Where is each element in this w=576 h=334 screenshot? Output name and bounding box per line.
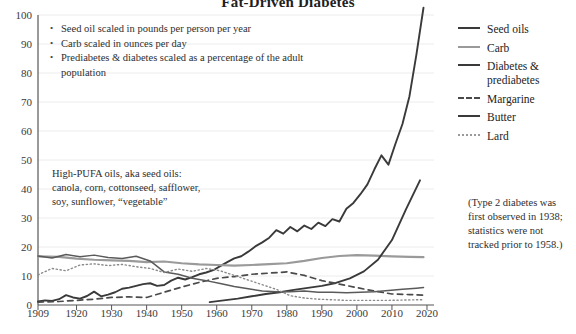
x-axis-tick-label: 1990	[311, 307, 333, 319]
y-axis-tick-label: 60	[21, 125, 32, 137]
chart-container: Fat-Driven Diabetes 01020304050607080901…	[0, 0, 576, 334]
legend-swatch-icon	[458, 110, 480, 122]
x-axis-tick-label: 2020	[416, 307, 438, 319]
pufa-note-annotation: High-PUFA oils, aka seed oils: canola, c…	[52, 167, 282, 209]
legend-item-butter[interactable]: Butter	[458, 110, 572, 124]
pufa-note-line-2: canola, corn, cottonseed, safflower,	[52, 181, 282, 195]
x-axis-tick-label: 2000	[346, 307, 368, 319]
x-axis-tick-label: 1950	[171, 307, 193, 319]
legend-swatch-icon	[458, 92, 480, 104]
x-axis-tick-label: 1980	[276, 307, 298, 319]
legend-item-margarine[interactable]: Margarine	[458, 92, 572, 106]
chart-legend: Seed oilsCarbDiabetes & prediabetesMarga…	[458, 22, 572, 147]
legend-item-diabetes-prediabetes[interactable]: Diabetes & prediabetes	[458, 59, 572, 87]
scaling-notes-annotation: Seed oil scaled in pounds per person per…	[48, 22, 348, 80]
pufa-note-line-1: High-PUFA oils, aka seed oils:	[52, 167, 282, 181]
legend-item-label: Diabetes & prediabetes	[487, 59, 572, 87]
x-axis-tick-label: 1970	[241, 307, 263, 319]
scaling-note-item: Prediabetes & diabetes scaled as a perce…	[61, 51, 348, 79]
legend-swatch-icon	[458, 41, 480, 53]
legend-item-lard[interactable]: Lard	[458, 129, 572, 143]
x-axis-labels: 1909192019301940195019601970198019902000…	[38, 307, 434, 329]
legend-item-carb[interactable]: Carb	[458, 41, 572, 55]
y-axis-tick-label: 100	[16, 9, 33, 21]
legend-item-label: Seed oils	[487, 22, 572, 36]
legend-item-label: Butter	[487, 110, 572, 124]
legend-item-label: Carb	[487, 41, 572, 55]
x-axis-tick-label: 1909	[27, 307, 49, 319]
y-axis-tick-label: 70	[21, 96, 32, 108]
y-axis-tick-label: 90	[21, 38, 32, 50]
scaling-note-item: Seed oil scaled in pounds per person per…	[61, 22, 348, 36]
legend-swatch-icon	[458, 129, 480, 141]
y-axis-tick-label: 20	[21, 241, 32, 253]
scaling-note-item: Carb scaled in ounces per day	[61, 37, 348, 51]
x-axis-tick-label: 2010	[381, 307, 403, 319]
y-axis-tick-label: 80	[21, 67, 32, 79]
chart-title: Fat-Driven Diabetes	[0, 0, 576, 11]
y-axis-tick-label: 30	[21, 212, 32, 224]
x-axis-tick-label: 1920	[66, 307, 88, 319]
x-axis-tick-label: 1940	[136, 307, 158, 319]
legend-item-label: Lard	[487, 129, 572, 143]
pufa-note-line-3: soy, sunflower, “vegetable”	[52, 195, 282, 209]
legend-item-label: Margarine	[487, 92, 572, 106]
legend-swatch-icon	[458, 59, 480, 71]
y-axis-tick-label: 40	[21, 183, 32, 195]
diabetes-note-annotation: (Type 2 diabetes was first observed in 1…	[468, 196, 572, 252]
x-axis-tick-label: 1960	[206, 307, 228, 319]
y-axis-tick-label: 10	[21, 270, 32, 282]
y-axis-tick-label: 50	[21, 154, 32, 166]
x-axis-tick-label: 1930	[101, 307, 123, 319]
legend-swatch-icon	[458, 22, 480, 34]
legend-item-seed-oils[interactable]: Seed oils	[458, 22, 572, 36]
